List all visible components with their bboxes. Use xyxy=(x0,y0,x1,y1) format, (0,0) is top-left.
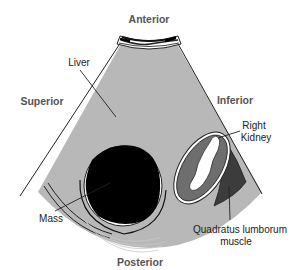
label-quadratus-1: Quadratus lumborum xyxy=(193,224,287,235)
label-mass: Mass xyxy=(39,213,63,224)
label-liver: Liver xyxy=(68,57,90,68)
mass-body xyxy=(86,145,160,224)
label-posterior: Posterior xyxy=(117,256,163,268)
label-inferior: Inferior xyxy=(217,94,253,106)
label-quadratus-2: muscle xyxy=(220,236,252,247)
label-superior: Superior xyxy=(20,95,63,107)
ultrasound-diagram: Anterior Superior Inferior Posterior Liv… xyxy=(0,0,295,270)
label-right-kidney-1: Right xyxy=(242,120,266,131)
transducer-near-field xyxy=(117,36,181,49)
label-anterior: Anterior xyxy=(129,13,170,25)
label-right-kidney-2: Kidney xyxy=(241,132,272,143)
